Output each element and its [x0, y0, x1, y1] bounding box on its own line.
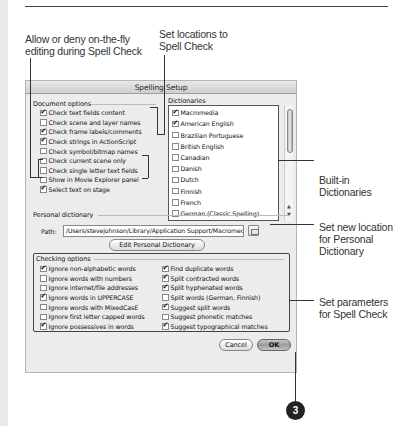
checkbox-unchecked-icon[interactable] — [40, 285, 47, 292]
checkbox-label: Check current scene only — [49, 157, 127, 164]
bracket-line — [38, 159, 43, 160]
leader-line — [30, 177, 38, 178]
bracket-line — [38, 177, 43, 178]
checkbox-option[interactable]: Select text on stage — [40, 185, 110, 195]
callout-line: Set new location — [319, 221, 393, 233]
checkbox-option[interactable]: Split words (German, Finnish) — [162, 293, 260, 303]
checkbox-checked-icon[interactable] — [40, 110, 47, 117]
checkbox-label: Ignore internet/file addresses — [49, 284, 139, 291]
checkbox-unchecked-icon[interactable] — [162, 314, 169, 321]
leader-line — [295, 352, 296, 402]
checkbox-label: Danish — [181, 165, 202, 172]
checkbox-option[interactable]: British English — [172, 142, 224, 152]
checkbox-option[interactable]: Dutch — [172, 175, 199, 185]
section-divider — [94, 259, 284, 260]
checkbox-option[interactable]: Brazilian Portuguese — [172, 130, 243, 140]
checkbox-checked-icon[interactable] — [40, 138, 47, 145]
checkbox-option[interactable]: Finnish — [172, 186, 202, 196]
checkbox-checked-icon[interactable] — [40, 129, 47, 136]
checkbox-option[interactable]: Ignore words with MixedCasE — [40, 302, 138, 312]
checkbox-unchecked-icon[interactable] — [172, 143, 179, 150]
scrollbar-thumb[interactable] — [287, 109, 293, 153]
bracket-line — [142, 155, 148, 156]
callout-line: Set locations to — [159, 28, 228, 40]
checkbox-unchecked-icon[interactable] — [40, 167, 47, 174]
checkbox-label: Find duplicate words — [171, 265, 234, 272]
edit-personal-dictionary-button[interactable]: Edit Personal Dictionary — [109, 239, 205, 251]
checkbox-unchecked-icon[interactable] — [40, 314, 47, 321]
dictionaries-scrollbar[interactable]: ▲ ▼ — [284, 105, 293, 221]
checkbox-unchecked-icon[interactable] — [40, 119, 47, 126]
checkbox-checked-icon[interactable] — [172, 121, 179, 128]
checkbox-option[interactable]: Ignore internet/file addresses — [40, 283, 138, 293]
step-badge: 3 — [286, 401, 305, 420]
callout-line: Spell Check — [159, 40, 228, 52]
checkbox-option[interactable]: Ignore non-alphabetic words — [40, 264, 136, 274]
checkbox-unchecked-icon[interactable] — [162, 294, 169, 301]
callout-line: Dictionary — [319, 245, 393, 257]
callout-allow-deny: Allow or deny on-the-fly editing during … — [25, 33, 142, 57]
checkbox-label: Split contracted words — [171, 275, 240, 282]
checkbox-checked-icon[interactable] — [40, 294, 47, 301]
checkbox-option[interactable]: Split contracted words — [162, 274, 239, 284]
checkbox-option[interactable]: Suggest typographical matches — [162, 322, 268, 332]
checkbox-unchecked-icon[interactable] — [40, 148, 47, 155]
checkbox-unchecked-icon[interactable] — [172, 166, 179, 173]
checkbox-unchecked-icon[interactable] — [172, 177, 179, 184]
path-input[interactable]: /Users/stevejohnson/Library/Application … — [63, 225, 244, 237]
checkbox-option[interactable]: German (Classic Spelling) — [172, 209, 259, 219]
checkbox-option[interactable]: Check text fields content — [40, 108, 125, 118]
checkbox-checked-icon[interactable] — [40, 266, 47, 273]
checkbox-unchecked-icon[interactable] — [172, 188, 179, 195]
checkbox-option[interactable]: Show in Movie Explorer panel — [40, 175, 139, 185]
checkbox-option[interactable]: Check symbol/bitmap names — [40, 146, 138, 156]
checkbox-unchecked-icon[interactable] — [172, 132, 179, 139]
checkbox-checked-icon[interactable] — [162, 285, 169, 292]
checkbox-unchecked-icon[interactable] — [40, 275, 47, 282]
dictionaries-list[interactable]: MacromediaAmerican EnglishBrazilian Port… — [168, 105, 279, 221]
section-divider — [98, 215, 290, 216]
checkbox-option[interactable]: Find duplicate words — [162, 264, 233, 274]
scroll-down-arrow-icon[interactable]: ▼ — [287, 211, 291, 217]
checkbox-checked-icon[interactable] — [172, 110, 179, 117]
checkbox-option[interactable]: Check scene and layer names — [40, 118, 140, 128]
browse-folder-button[interactable] — [248, 225, 259, 236]
checkbox-option[interactable]: Split hyphenated words — [162, 283, 243, 293]
checkbox-label: Suggest phonetic matches — [171, 313, 253, 320]
checkbox-checked-icon[interactable] — [162, 304, 169, 311]
callout-line: for Personal — [319, 233, 393, 245]
checkbox-unchecked-icon[interactable] — [172, 199, 179, 206]
checkbox-checked-icon[interactable] — [162, 323, 169, 330]
checkbox-option[interactable]: American English — [172, 119, 234, 129]
checkbox-unchecked-icon[interactable] — [172, 154, 179, 161]
checkbox-option[interactable]: Ignore words in UPPERCASE — [40, 293, 133, 303]
callout-line: Set parameters — [319, 296, 388, 308]
cancel-button[interactable]: Cancel — [219, 339, 253, 351]
callout-new-location: Set new location for Personal Dictionary — [319, 221, 393, 257]
personal-dictionary-label: Personal dictionary — [33, 211, 93, 219]
ok-button[interactable]: OK — [257, 339, 291, 351]
checkbox-option[interactable]: Check current scene only — [40, 156, 126, 166]
spelling-setup-dialog: Spelling Setup Document options Check te… — [25, 80, 297, 373]
checkbox-option[interactable]: Suggest split words — [162, 302, 230, 312]
checkbox-checked-icon[interactable] — [40, 323, 47, 330]
checkbox-checked-icon[interactable] — [162, 266, 169, 273]
checkbox-label: Select text on stage — [49, 186, 110, 193]
checkbox-option[interactable]: Check strings in ActionScript — [40, 137, 136, 147]
checkbox-option[interactable]: Canadian — [172, 153, 209, 163]
checkbox-option[interactable]: Danish — [172, 164, 202, 174]
checkbox-label: Finnish — [181, 188, 202, 195]
checkbox-checked-icon[interactable] — [162, 275, 169, 282]
checkbox-option[interactable]: Ignore possessives in words — [40, 322, 134, 332]
checkbox-unchecked-icon[interactable] — [40, 304, 47, 311]
checkbox-option[interactable]: Ignore first letter capped words — [40, 312, 145, 322]
checkbox-option[interactable]: Check frame labels/comments — [40, 127, 142, 137]
checkbox-option[interactable]: Suggest phonetic matches — [162, 312, 252, 322]
checking-options-label: Checking options — [36, 255, 90, 263]
checkbox-checked-icon[interactable] — [40, 186, 47, 193]
checkbox-option[interactable]: Check single letter text fields — [40, 166, 138, 176]
checkbox-option[interactable]: French — [172, 198, 201, 208]
checkbox-option[interactable]: Macromedia — [172, 108, 218, 118]
checkbox-option[interactable]: Ignore words with numbers — [40, 274, 132, 284]
scroll-up-arrow-icon[interactable]: ▲ — [287, 203, 291, 209]
